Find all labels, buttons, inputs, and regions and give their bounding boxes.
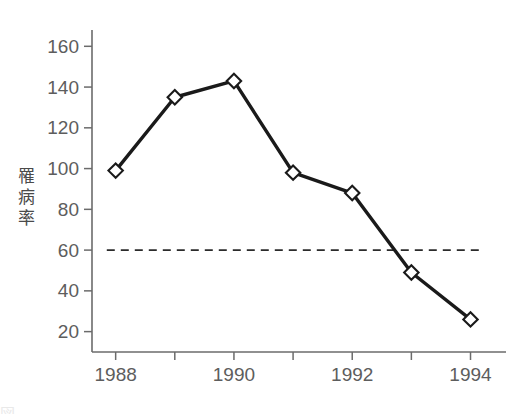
x-tick-label: 1994 (449, 364, 492, 385)
clipped-caption-text: 図 (0, 402, 530, 414)
x-tick-label: 1990 (213, 364, 255, 385)
x-tick-label: 1988 (95, 364, 137, 385)
y-axis-title-char: 病 (18, 187, 35, 207)
y-tick-label: 40 (58, 280, 79, 301)
morbidity-rate-line-chart: 20406080100120140160 1988199019921994 罹病… (0, 0, 530, 414)
y-tick-label: 160 (47, 36, 79, 57)
y-tick-label: 80 (58, 199, 79, 220)
chart-container: 20406080100120140160 1988199019921994 罹病… (0, 0, 530, 414)
y-tick-label: 120 (47, 117, 79, 138)
y-axis-title-char: 率 (18, 208, 35, 228)
y-tick-label: 60 (58, 240, 79, 261)
y-tick-label: 20 (58, 321, 79, 342)
y-tick-label: 140 (47, 77, 79, 98)
y-tick-label: 100 (47, 158, 79, 179)
y-axis-title: 罹病率 (18, 166, 35, 228)
x-tick-label: 1992 (331, 364, 373, 385)
y-axis-title-char: 罹 (18, 166, 35, 186)
